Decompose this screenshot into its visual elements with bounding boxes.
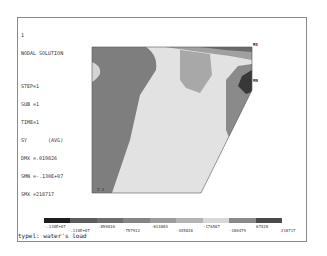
plot-caption: typel: water's load xyxy=(18,232,87,239)
min-marker: MN xyxy=(253,78,258,83)
legend-colorbar xyxy=(44,218,282,223)
coordinate-triad: Z X xyxy=(97,187,105,192)
legend-band-1 xyxy=(44,218,70,223)
legend-label: -859010 xyxy=(98,224,115,229)
legend-label: 67428 xyxy=(256,224,268,229)
max-marker: MX xyxy=(253,42,258,47)
legend-band-3 xyxy=(97,218,123,223)
legend-label: -.130E+07 xyxy=(44,224,66,229)
legend-label: -180479 xyxy=(229,228,246,233)
legend-label: -176587 xyxy=(203,224,220,229)
legend-label: -614804 xyxy=(151,224,168,229)
legend-band-4 xyxy=(123,218,149,223)
legend-band-7 xyxy=(203,218,229,223)
legend-band-6 xyxy=(176,218,202,223)
legend-band-9 xyxy=(256,218,282,223)
legend-label: -445828 xyxy=(176,228,193,233)
legend-band-2 xyxy=(70,218,96,223)
legend-band-8 xyxy=(229,218,255,223)
legend-band-5 xyxy=(150,218,176,223)
legend-label: 218717 xyxy=(281,228,295,233)
legend-label: -757912 xyxy=(123,228,140,233)
